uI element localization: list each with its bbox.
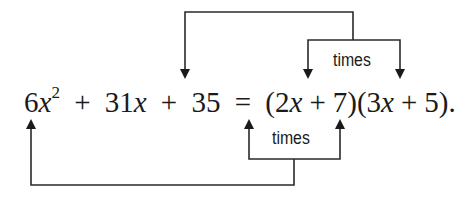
paren-close: ) <box>347 86 357 118</box>
paren-open: ( <box>265 86 275 118</box>
plus-sign: + <box>394 86 424 118</box>
bottom-times-label: times <box>272 128 310 149</box>
period: . <box>448 86 455 118</box>
factor2-coef: 3 <box>367 86 382 118</box>
top-times-label: times <box>333 50 371 71</box>
arrow-down-to-7-icon <box>303 69 313 79</box>
arrow-up-to-2x-icon <box>244 119 254 129</box>
arrow-up-to-3x-icon <box>335 119 345 129</box>
paren-open: ( <box>357 86 367 118</box>
term-x-var: x <box>39 86 52 118</box>
exponent-2: 2 <box>51 83 60 102</box>
plus-sign: + <box>302 86 332 118</box>
term-x-var: x <box>134 86 147 118</box>
factor2-var: x <box>381 86 394 118</box>
term-35: 35 <box>191 86 220 118</box>
arrow-down-to-5-icon <box>395 69 405 79</box>
rhs: (2x+7)(3x+5). <box>265 86 455 118</box>
factor1-coef: 2 <box>275 86 290 118</box>
lhs: 6x2 + 31x + 35 <box>24 86 228 118</box>
arrow-down-to-35-icon <box>180 69 190 79</box>
equation: 6x2 + 31x + 35 = (2x+7)(3x+5). <box>24 86 456 119</box>
term-6-coef: 6 <box>24 86 39 118</box>
equals-sign: = <box>228 86 258 118</box>
term-31-coef: 31 <box>105 86 134 118</box>
plus-sign: + <box>67 86 97 118</box>
top-outer-connector <box>180 12 353 79</box>
factor2-const: 5 <box>424 86 439 118</box>
plus-sign: + <box>154 86 184 118</box>
arrow-up-to-6x2-icon <box>26 119 36 129</box>
factor1-var: x <box>290 86 303 118</box>
factor1-const: 7 <box>333 86 348 118</box>
